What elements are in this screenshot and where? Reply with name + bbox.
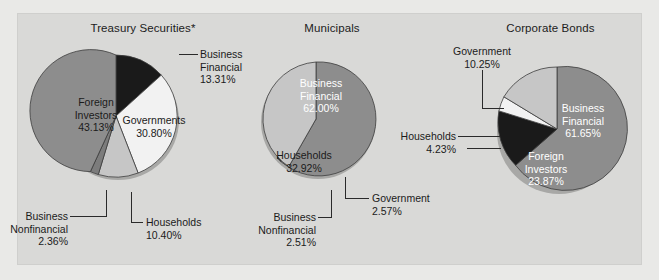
leader-line-business-financial (179, 54, 198, 55)
label-value: 10.40% (146, 229, 212, 242)
label-value: 23.87% (507, 175, 585, 188)
label-corporate-business-financial: Business Financial 61.65% (542, 102, 624, 140)
label-line-1: Business (282, 77, 360, 90)
chart-title-corporate: Corporate Bonds (458, 22, 643, 34)
leader-line-business-nonfinancial-v (331, 190, 332, 218)
leader-line-business-nonfinancial-h (318, 217, 332, 218)
leader-line-business-nonfinancial-h (70, 216, 107, 217)
label-treasury-households: Households 10.40% (146, 216, 226, 241)
chart-title-treasury: Treasury Securities* (18, 22, 268, 34)
label-line-1: Government (435, 45, 529, 58)
label-line-1: Households (262, 149, 346, 162)
leader-line-business-nonfinancial-v (106, 190, 107, 217)
leader-line-households-h1 (458, 136, 500, 137)
label-line-1: Foreign (58, 96, 134, 109)
label-treasury-governments: Governments 30.80% (116, 114, 192, 139)
label-value: 10.25% (435, 58, 529, 71)
label-municipals-government: Government 2.57% (372, 192, 452, 217)
label-value: 32.92% (262, 162, 346, 175)
label-line-1: Households (146, 216, 226, 229)
label-line-1: Governments (116, 114, 192, 127)
label-corporate-households: Households 4.23% (386, 130, 456, 155)
leader-line-households-v (131, 192, 132, 223)
leader-line-government-h (482, 108, 504, 109)
leader-line-households-h (131, 222, 143, 223)
figure-panel: Treasury Securities* Foreign Investors 4… (17, 13, 642, 265)
label-line-2: Financial (542, 115, 624, 128)
label-line-1: Business (542, 102, 624, 115)
label-value: 2.51% (240, 236, 316, 249)
label-value: 2.36% (0, 235, 68, 248)
label-value: 62.00% (282, 102, 360, 115)
label-municipals-business-nonfinancial: Business Nonfinancial 2.51% (240, 211, 316, 249)
label-line-1: Households (386, 130, 456, 143)
label-corporate-government: Government 10.25% (435, 45, 529, 70)
leader-line-government-h (345, 198, 369, 199)
label-line-2: Nonfinancial (240, 224, 316, 237)
label-corporate-foreign-investors: Foreign Investors 23.87% (507, 150, 585, 188)
label-line-2: Financial (282, 90, 360, 103)
label-value: 4.23% (386, 143, 456, 156)
label-line-1: Foreign (507, 150, 585, 163)
label-municipals-business-financial: Business Financial 62.00% (282, 77, 360, 115)
chart-title-municipals: Municipals (252, 22, 412, 34)
label-line-2: Nonfinancial (0, 223, 68, 236)
label-municipals-households: Households 32.92% (262, 149, 346, 174)
leader-line-government-v (482, 70, 483, 109)
label-line-1: Business (0, 210, 68, 223)
label-value: 2.57% (372, 205, 440, 218)
label-value: 30.80% (116, 127, 192, 140)
leader-line-government-v (345, 177, 346, 199)
label-treasury-business-nonfinancial: Business Nonfinancial 2.36% (0, 210, 68, 248)
label-line-1: Business (240, 211, 316, 224)
label-value: 61.65% (542, 127, 624, 140)
label-line-2: Investors (507, 163, 585, 176)
leader-line-households-h2 (467, 148, 501, 149)
label-line-1: Government (372, 192, 452, 205)
